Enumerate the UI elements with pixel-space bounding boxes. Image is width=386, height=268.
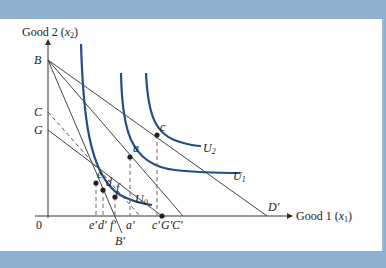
- origin-label: 0: [36, 218, 42, 232]
- point-f: [112, 194, 117, 199]
- label-U0: U0: [135, 192, 148, 207]
- label-B: B: [34, 53, 42, 67]
- label-G: G: [34, 123, 43, 137]
- point-a: [127, 154, 132, 159]
- label-a-prime: a': [126, 218, 135, 232]
- label-C: C: [34, 105, 43, 119]
- y-axis-title: Good 2 (x2): [22, 25, 78, 40]
- label-e-prime: e': [89, 218, 97, 232]
- label-d-prime: d': [98, 218, 107, 232]
- x-axis-title: Good 1 (x1): [296, 209, 352, 224]
- point-c: [154, 132, 159, 137]
- label-a: a: [133, 141, 139, 155]
- label-B-prime: B': [115, 234, 125, 248]
- label-e: e: [97, 167, 103, 181]
- indifference-curve-U2: [146, 73, 201, 146]
- label-D-prime: D': [267, 200, 280, 214]
- label-C-prime: C': [172, 218, 183, 232]
- label-c: c: [160, 120, 166, 134]
- label-f-prime: f': [110, 218, 116, 232]
- label-c-prime: c': [152, 218, 160, 232]
- label-f: f: [116, 181, 121, 195]
- point-e: [93, 180, 98, 185]
- consumer-choice-diagram: Good 2 (x2) Good 1 (x1) B C G 0 e' d' f'…: [0, 0, 386, 268]
- label-U1: U1: [233, 169, 246, 184]
- indifference-curve-U1: [121, 73, 240, 173]
- point-d: [100, 187, 105, 192]
- label-G-prime: G': [161, 218, 173, 232]
- label-U2: U2: [203, 141, 216, 156]
- label-d: d: [106, 175, 113, 189]
